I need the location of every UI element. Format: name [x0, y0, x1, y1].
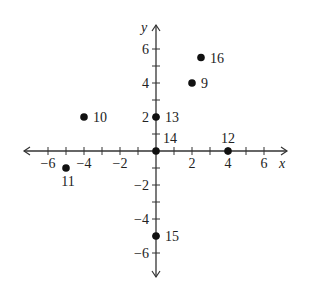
data-point-label: 10 — [93, 110, 107, 125]
data-point-label: 14 — [163, 131, 177, 146]
data-point — [152, 147, 160, 155]
x-tick-label: −4 — [77, 156, 92, 171]
y-tick-label: −6 — [134, 246, 149, 261]
y-tick-label: 2 — [142, 110, 149, 125]
data-point — [197, 54, 205, 62]
x-tick-label: −2 — [113, 156, 128, 171]
x-tick-label: −6 — [41, 156, 56, 171]
y-tick-label: −4 — [134, 212, 149, 227]
data-point — [188, 79, 196, 87]
data-point-label: 11 — [61, 174, 74, 189]
data-point — [152, 232, 160, 240]
data-point-label: 13 — [165, 110, 179, 125]
x-axis-label: x — [278, 156, 286, 171]
y-tick-label: −2 — [134, 178, 149, 193]
y-tick-label: 6 — [142, 42, 149, 57]
data-point — [152, 113, 160, 121]
data-point — [224, 147, 232, 155]
coordinate-plane: −6−4−2246642−2−4−6 910111213141516 x y — [0, 0, 309, 296]
y-tick-label: 4 — [142, 76, 149, 91]
y-axis-label: y — [139, 20, 148, 35]
data-point-label: 9 — [201, 76, 208, 91]
data-point — [62, 164, 70, 172]
data-point-label: 12 — [221, 131, 235, 146]
x-tick-label: 2 — [189, 156, 196, 171]
data-point-label: 15 — [165, 229, 179, 244]
data-point — [80, 113, 88, 121]
x-tick-label: 6 — [261, 156, 268, 171]
x-tick-label: 4 — [225, 156, 232, 171]
data-point-label: 16 — [210, 51, 224, 66]
